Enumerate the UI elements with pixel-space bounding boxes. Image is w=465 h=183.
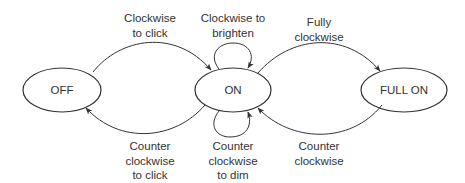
transition-off-to-on-label: Clockwise to click: [124, 11, 176, 40]
transition-on-to-full-on-label: Fully clockwise: [294, 15, 343, 44]
transition-on-to-off-arrow: [86, 105, 205, 134]
state-off-label: OFF: [51, 84, 74, 96]
transition-on-self-top-arrow: [214, 43, 251, 69]
transition-off-to-on-arrow: [93, 42, 211, 72]
transition-on-self-bottom-arrow: [214, 111, 250, 137]
transition-on-to-off-label: Counter clockwise to click: [125, 139, 174, 183]
transition-full-on-to-on-label: Counter clockwise: [294, 139, 343, 168]
state-full-on-label: FULL ON: [380, 84, 428, 96]
transition-full-on-to-on-arrow: [258, 105, 382, 134]
transition-on-self-top-label: Clockwise to brighten: [201, 11, 266, 40]
transition-on-to-full-on-arrow: [258, 43, 380, 73]
state-on-label: ON: [224, 84, 241, 96]
transition-on-self-bottom-label: Counter clockwise to dim: [208, 139, 257, 183]
